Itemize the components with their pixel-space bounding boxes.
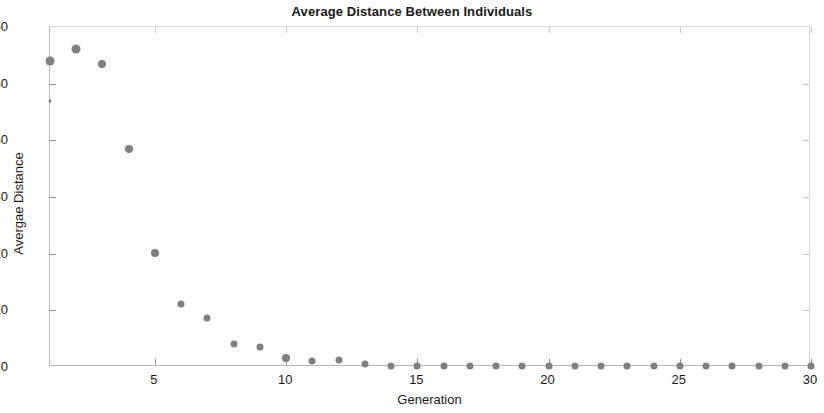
x-tick-mark: [417, 27, 418, 33]
data-point: [230, 341, 237, 348]
data-point: [309, 357, 316, 364]
y-tick-label: 0: [1, 359, 8, 374]
y-tick-mark: [803, 254, 809, 255]
data-point: [440, 362, 447, 369]
data-point: [256, 344, 263, 351]
data-point: [781, 362, 788, 369]
data-point: [624, 362, 631, 369]
x-tick-mark: [811, 27, 812, 33]
data-point: [49, 99, 52, 102]
data-point: [72, 44, 81, 53]
x-tick-label: 20: [540, 372, 554, 387]
data-point: [808, 362, 815, 369]
y-tick-mark: [50, 310, 56, 311]
data-point: [282, 354, 290, 362]
data-point: [493, 362, 500, 369]
data-point: [676, 362, 683, 369]
data-point: [466, 362, 473, 369]
x-tick-label: 25: [672, 372, 686, 387]
x-tick-label: 5: [150, 372, 157, 387]
y-tick-mark: [50, 84, 56, 85]
data-point: [414, 362, 421, 369]
data-point: [545, 362, 552, 369]
x-tick-label: 15: [409, 372, 423, 387]
data-point: [388, 362, 395, 369]
y-tick-label: 40: [0, 132, 8, 147]
y-tick-mark: [50, 140, 56, 141]
y-tick-label: 10: [0, 302, 8, 317]
data-point: [151, 249, 159, 257]
x-tick-mark: [155, 27, 156, 33]
plot-area: [49, 26, 810, 366]
y-tick-label: 20: [0, 245, 8, 260]
data-point: [204, 314, 211, 321]
data-point: [178, 300, 185, 307]
data-point: [650, 362, 657, 369]
data-point: [755, 362, 762, 369]
data-point: [335, 357, 342, 364]
y-tick-label: 30: [0, 189, 8, 204]
x-tick-mark: [549, 27, 550, 33]
y-tick-mark: [803, 197, 809, 198]
x-tick-mark: [286, 27, 287, 33]
y-tick-mark: [50, 197, 56, 198]
x-axis-label: Generation: [49, 392, 810, 407]
data-point: [729, 362, 736, 369]
data-point: [571, 362, 578, 369]
x-tick-label: 10: [278, 372, 292, 387]
y-tick-mark: [803, 140, 809, 141]
y-tick-label: 50: [0, 75, 8, 90]
data-point: [598, 362, 605, 369]
data-point: [519, 362, 526, 369]
chart-title: Average Distance Between Individuals: [0, 4, 824, 19]
x-tick-mark: [155, 359, 156, 365]
x-tick-label: 30: [803, 372, 817, 387]
y-tick-label: 60: [0, 19, 8, 34]
data-point: [125, 145, 133, 153]
data-point: [703, 362, 710, 369]
data-point: [46, 57, 55, 66]
data-point: [361, 360, 368, 367]
chart-page: Average Distance Between Individuals Ave…: [0, 0, 824, 413]
y-tick-mark: [50, 254, 56, 255]
y-tick-mark: [803, 84, 809, 85]
data-point: [98, 60, 106, 68]
x-tick-mark: [680, 27, 681, 33]
y-axis-label: Avergae Distance: [11, 124, 26, 284]
y-tick-mark: [803, 310, 809, 311]
